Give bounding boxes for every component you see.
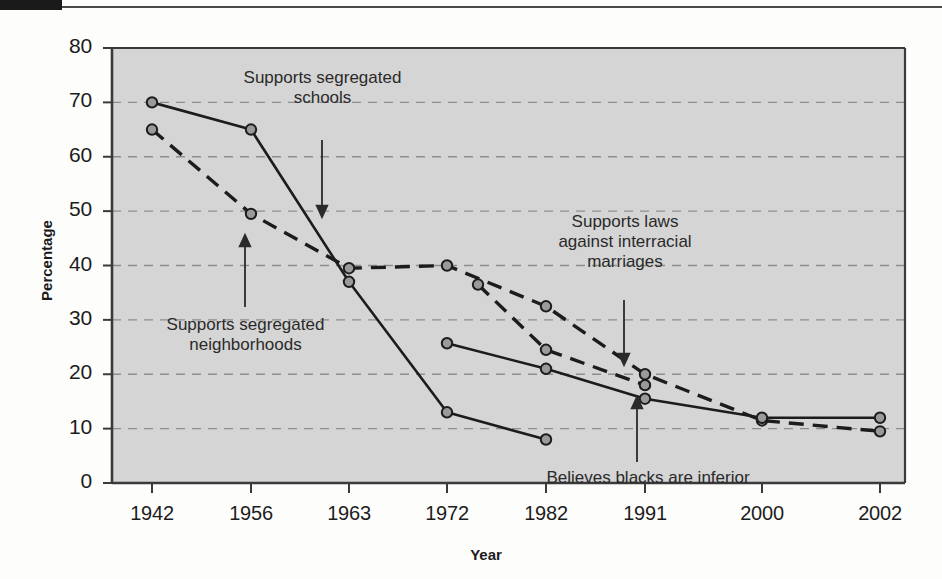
line-chart-plot [0,0,942,579]
data-point-marker [640,394,650,404]
x-tick-label: 1963 [309,502,389,525]
annotation-supports-segregated-schools: Supports segregated schools [205,68,440,108]
data-point-marker [246,209,256,219]
data-point-marker [541,301,551,311]
data-point-marker [473,279,483,289]
x-tick-label: 2002 [840,502,920,525]
y-tick-label: 80 [46,34,92,58]
y-tick-label: 30 [46,306,92,330]
y-tick-label: 0 [46,469,92,493]
data-point-marker [875,413,885,423]
data-point-marker [640,369,650,379]
data-point-marker [541,364,551,374]
data-point-marker [344,277,354,287]
y-tick-label: 40 [46,252,92,276]
y-tick-label: 70 [46,88,92,112]
data-point-marker [147,124,157,134]
data-point-marker [147,97,157,107]
data-point-marker [757,413,767,423]
x-tick-label: 1972 [407,502,487,525]
data-point-marker [640,380,650,390]
annotation-supports-laws-against-interracial-marriages: Supports laws against interracial marria… [530,212,720,272]
data-point-marker [541,345,551,355]
annotation-believes-blacks-are-inferior: Believes blacks are inferior [498,468,798,488]
data-point-marker [875,426,885,436]
x-tick-label: 1991 [605,502,685,525]
data-point-marker [442,407,452,417]
figure-root: Percentage Year 01020304050607080 194219… [0,0,942,579]
x-tick-label: 1942 [112,502,192,525]
y-tick-label: 10 [46,415,92,439]
data-point-marker [442,260,452,270]
data-point-marker [442,338,452,348]
x-tick-label: 1982 [506,502,586,525]
x-tick-label: 2000 [722,502,802,525]
x-axis-label: Year [456,546,516,563]
data-point-marker [246,124,256,134]
data-point-marker [344,263,354,273]
x-tick-label: 1956 [211,502,291,525]
annotation-supports-segregated-neighborhoods: Supports segregated neighborhoods [128,315,363,355]
y-tick-label: 20 [46,360,92,384]
data-point-marker [541,434,551,444]
y-tick-label: 60 [46,143,92,167]
y-tick-label: 50 [46,197,92,221]
